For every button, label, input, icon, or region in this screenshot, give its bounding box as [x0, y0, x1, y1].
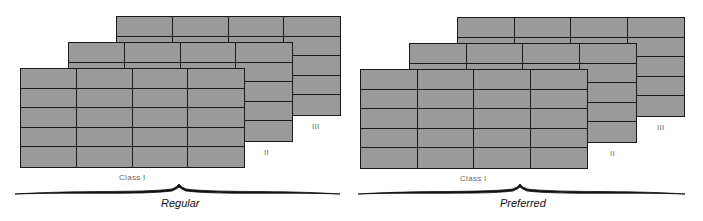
grid-cell	[77, 108, 133, 128]
caption-preferred: Preferred	[500, 197, 546, 209]
grid-cell	[361, 148, 418, 168]
grid-cell	[580, 44, 637, 64]
grid-cell	[418, 109, 475, 129]
grid-cell	[474, 90, 531, 110]
grid-cell	[410, 44, 467, 64]
grid-cell	[188, 69, 244, 89]
label-class-iii-preferred: III	[657, 123, 665, 132]
grid-cell	[21, 128, 77, 148]
grid-cell	[125, 43, 181, 63]
grid-cell	[188, 89, 244, 109]
grid-cell	[77, 69, 133, 89]
grid-cell	[474, 129, 531, 149]
grid-cell	[531, 148, 588, 168]
grid-cell	[361, 90, 418, 110]
caption-regular: Regular	[161, 197, 200, 209]
grid-cell	[531, 109, 588, 129]
grid-cell	[133, 108, 189, 128]
grid-cell	[531, 90, 588, 110]
grid-cell	[188, 128, 244, 148]
label-class-ii-preferred: II	[610, 149, 615, 158]
grid-cell	[133, 128, 189, 148]
grid-cell	[181, 43, 237, 63]
grid-cell	[77, 147, 133, 167]
grid-cell	[474, 109, 531, 129]
grid-cell	[188, 108, 244, 128]
grid-cell	[458, 18, 515, 38]
grid-cell	[531, 129, 588, 149]
grid-cell	[571, 18, 628, 38]
grid-cell	[21, 69, 77, 89]
grid-cell	[133, 69, 189, 89]
grid-cell	[531, 70, 588, 90]
grid-cell	[474, 70, 531, 90]
grid-cell	[69, 43, 125, 63]
grid-cell	[236, 43, 292, 63]
grid-cell	[188, 147, 244, 167]
sheet-class-i-preferred	[360, 69, 588, 169]
grid-cell	[133, 147, 189, 167]
grid-cell	[515, 18, 572, 38]
grid-cell	[523, 44, 580, 64]
grid-cell	[21, 108, 77, 128]
grid-cell	[474, 148, 531, 168]
grid-cell	[77, 89, 133, 109]
grid-cell	[418, 90, 475, 110]
grid-cell	[117, 17, 173, 37]
grid-cell	[173, 17, 229, 37]
grid-cell	[21, 147, 77, 167]
label-class-iii-regular: III	[312, 122, 320, 131]
label-class-i-regular: Class I	[119, 173, 146, 182]
grid-cell	[418, 129, 475, 149]
grid-cell	[21, 89, 77, 109]
grid-cell	[284, 17, 340, 37]
label-class-ii-regular: II	[264, 148, 269, 157]
grid-cell	[77, 128, 133, 148]
grid-cell	[361, 70, 418, 90]
sheet-class-i-regular	[20, 68, 245, 168]
grid-cell	[133, 89, 189, 109]
grid-cell	[229, 17, 285, 37]
grid-cell	[418, 70, 475, 90]
grid-cell	[361, 129, 418, 149]
grid-cell	[418, 148, 475, 168]
grid-cell	[628, 18, 685, 38]
grid-cell	[361, 109, 418, 129]
grid-cell	[467, 44, 524, 64]
